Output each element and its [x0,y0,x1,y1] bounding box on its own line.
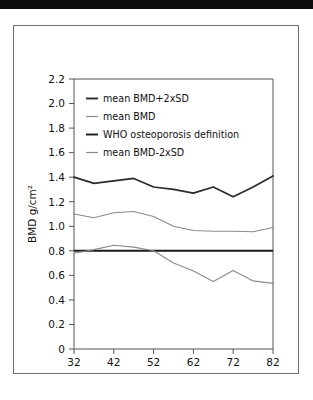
y-tick-label: 0.6 [48,269,65,281]
y-tick-label: 0.2 [48,318,65,330]
y-axis-tick-labels: 2.2 2.0 1.8 1.6 1.4 1.2 1.0 0.8 0.6 0.4 … [48,73,65,355]
y-axis-ticks [69,79,74,349]
y-tick-label: 2.2 [48,73,65,85]
y-tick-label: 0.8 [48,245,65,257]
page-root: 2.2 2.0 1.8 1.6 1.4 1.2 1.0 0.8 0.6 0.4 … [0,0,313,400]
legend-label-mean-bmd-minus-2sd: mean BMD-2xSD [103,147,184,158]
bmd-vs-age-line-chart: 2.2 2.0 1.8 1.6 1.4 1.2 1.0 0.8 0.6 0.4 … [14,26,298,373]
x-axis-tick-labels: 32 42 52 62 72 82 [67,356,279,368]
x-tick-label: 62 [187,356,200,368]
x-axis-ticks [74,349,273,354]
legend-label-mean-bmd: mean BMD [103,111,156,122]
x-tick-label: 82 [266,356,279,368]
y-tick-label: 1.6 [48,146,65,158]
y-tick-label: 0 [58,343,65,355]
x-axis-title: age (years) [143,371,203,373]
x-tick-label: 72 [227,356,240,368]
y-axis-title: BMD g/cm² [26,185,38,243]
legend-label-mean-bmd-plus-2sd: mean BMD+2xSD [103,93,189,104]
y-tick-label: 1.2 [48,196,65,208]
x-tick-label: 32 [67,356,80,368]
legend-label-who-definition: WHO osteoporosis definition [103,129,239,140]
y-tick-label: 2.0 [48,97,65,109]
y-tick-label: 1.4 [48,171,65,183]
x-tick-label: 42 [107,356,120,368]
top-black-bar [0,0,313,9]
y-tick-label: 1.0 [48,220,65,232]
figure-frame: 2.2 2.0 1.8 1.6 1.4 1.2 1.0 0.8 0.6 0.4 … [13,25,299,374]
y-tick-label: 1.8 [48,122,65,134]
x-tick-label: 52 [147,356,160,368]
y-tick-label: 0.4 [48,294,65,306]
